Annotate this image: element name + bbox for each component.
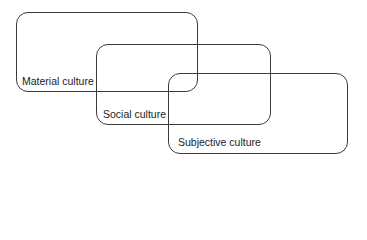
subjective-culture-label: Subjective culture xyxy=(178,136,261,148)
social-culture-label: Social culture xyxy=(103,108,166,120)
material-culture-label: Material culture xyxy=(22,75,94,87)
